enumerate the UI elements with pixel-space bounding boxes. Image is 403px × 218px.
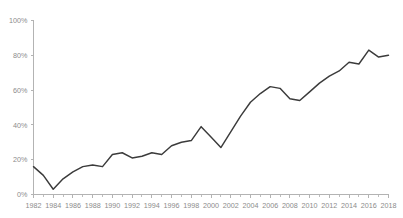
chart-canvas: 0%20%40%60%80%100% 198219841986198819901… xyxy=(0,0,403,218)
x-tick-label: 1998 xyxy=(183,201,199,210)
x-tick-label: 2012 xyxy=(321,201,337,210)
x-tick-label: 2006 xyxy=(262,201,278,210)
plot-area xyxy=(34,50,389,189)
x-tick-label: 1986 xyxy=(65,201,81,210)
x-tick-label: 1994 xyxy=(144,201,160,210)
x-tick-label: 2002 xyxy=(223,201,239,210)
data-series-line xyxy=(34,50,389,189)
x-tick-label: 2010 xyxy=(302,201,318,210)
y-axis: 0%20%40%60%80%100% xyxy=(9,16,33,199)
x-tick-label: 1988 xyxy=(85,201,101,210)
y-tick-label: 80% xyxy=(13,51,28,60)
line-chart: 0%20%40%60%80%100% 198219841986198819901… xyxy=(0,0,403,218)
x-tick-label: 2018 xyxy=(381,201,397,210)
y-tick-label: 60% xyxy=(13,86,28,95)
x-axis-tick-labels: 1982198419861988199019921994199619982000… xyxy=(26,201,397,210)
x-tick-label: 2014 xyxy=(341,201,357,210)
y-tick-label: 100% xyxy=(9,16,28,25)
y-tick-label: 40% xyxy=(13,121,28,130)
x-axis: 1982198419861988199019921994199619982000… xyxy=(26,195,397,210)
x-tick-label: 1990 xyxy=(104,201,120,210)
x-tick-label: 2004 xyxy=(242,201,258,210)
y-tick-label: 20% xyxy=(13,155,28,164)
x-tick-label: 1996 xyxy=(164,201,180,210)
x-tick-label: 1992 xyxy=(124,201,140,210)
x-tick-label: 1982 xyxy=(26,201,42,210)
x-tick-label: 1984 xyxy=(45,201,61,210)
x-tick-label: 2000 xyxy=(203,201,219,210)
x-tick-label: 2016 xyxy=(361,201,377,210)
x-tick-label: 2008 xyxy=(282,201,298,210)
y-tick-label: 0% xyxy=(17,190,28,199)
y-axis-tick-labels: 0%20%40%60%80%100% xyxy=(9,16,28,199)
x-axis-ticks xyxy=(34,195,389,199)
